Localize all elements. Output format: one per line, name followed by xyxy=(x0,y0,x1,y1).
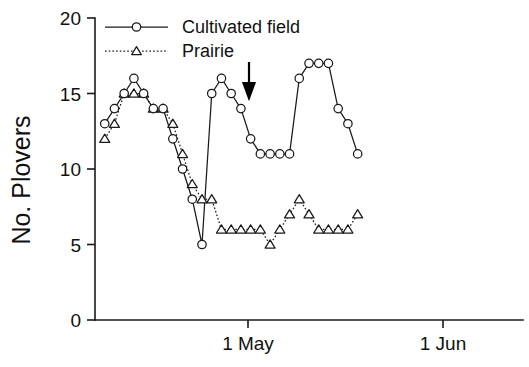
x-tick-label-jun: 1 Jun xyxy=(420,333,466,354)
data-point-circle xyxy=(315,59,323,67)
data-point-circle xyxy=(217,74,225,82)
y-tick-label-15: 15 xyxy=(60,84,81,105)
data-point-circle xyxy=(120,89,128,97)
chart-svg: 0 5 10 15 20 1 May 1 Jun No. Plovers xyxy=(0,0,529,367)
data-point-circle xyxy=(149,104,157,112)
data-point-circle xyxy=(178,165,186,173)
data-point-circle xyxy=(198,240,206,248)
legend-label-cultivated-field: Cultivated field xyxy=(182,17,300,37)
data-point-circle xyxy=(305,59,313,67)
data-point-circle xyxy=(188,195,196,203)
data-point-circle xyxy=(266,150,274,158)
data-point-circle xyxy=(353,150,361,158)
data-point-circle xyxy=(237,104,245,112)
legend-circle-icon xyxy=(132,23,140,31)
y-tick-label-5: 5 xyxy=(70,235,81,256)
legend-label-prairie: Prairie xyxy=(182,41,234,61)
data-point-circle xyxy=(130,74,138,82)
data-point-circle xyxy=(256,150,264,158)
data-point-circle xyxy=(159,104,167,112)
data-point-circle xyxy=(208,89,216,97)
data-point-circle xyxy=(295,74,303,82)
y-tick-label-0: 0 xyxy=(70,310,81,331)
data-point-circle xyxy=(169,135,177,143)
data-point-circle xyxy=(101,120,109,128)
data-point-circle xyxy=(285,150,293,158)
data-point-circle xyxy=(110,104,118,112)
plover-abundance-chart: 0 5 10 15 20 1 May 1 Jun No. Plovers xyxy=(0,0,529,367)
data-point-circle xyxy=(276,150,284,158)
data-point-circle xyxy=(324,59,332,67)
y-axis-title: No. Plovers xyxy=(7,115,35,244)
data-point-circle xyxy=(334,104,342,112)
data-point-circle xyxy=(139,89,147,97)
data-point-circle xyxy=(344,120,352,128)
y-tick-label-20: 20 xyxy=(60,8,81,29)
data-point-circle xyxy=(246,135,254,143)
y-tick-label-10: 10 xyxy=(60,159,81,180)
x-tick-label-may: 1 May xyxy=(222,333,274,354)
data-point-circle xyxy=(227,89,235,97)
